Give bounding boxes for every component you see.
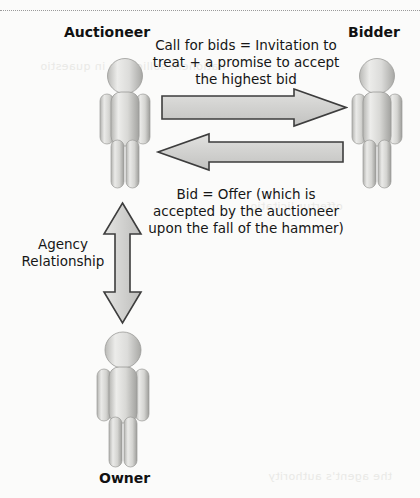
- person-figure-auctioneer: [92, 58, 158, 190]
- arrow-bidder-to-auctioneer: [155, 131, 345, 173]
- note-call-for-bids: Call for bids = Invitation to treat + a …: [150, 37, 342, 88]
- diagram-canvas: nationem sollicitare in quaestio offertu…: [0, 0, 420, 498]
- note-bid-offer: Bid = Offer (which is accepted by the au…: [148, 186, 344, 237]
- note-agency-relationship: Agency Relationship: [14, 236, 112, 270]
- actor-label-auctioneer: Auctioneer: [64, 24, 150, 40]
- arrow-auctioneer-to-owner: [100, 200, 146, 326]
- actor-label-bidder: Bidder: [348, 24, 400, 40]
- actor-label-owner: Owner: [99, 470, 150, 486]
- person-figure-bidder: [344, 58, 410, 190]
- top-dotted-divider: [0, 10, 420, 11]
- person-figure-owner: [90, 331, 156, 469]
- bleed-text-c: the agent's authority: [268, 470, 392, 483]
- arrow-auctioneer-to-bidder: [160, 88, 348, 128]
